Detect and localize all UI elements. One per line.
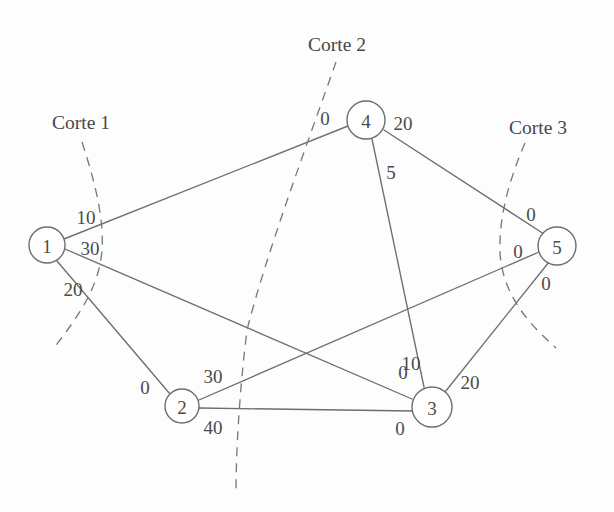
- node-1[interactable]: 1: [29, 227, 65, 263]
- corte-3-label: Corte 3: [509, 117, 567, 138]
- edge-1-3: [65, 249, 412, 399]
- corte-1-label: Corte 1: [52, 112, 110, 133]
- edge-1-4: [64, 126, 348, 239]
- corte-2-label: Corte 2: [308, 34, 366, 55]
- edge-label-1-3-0: 30: [81, 238, 100, 259]
- node-3[interactable]: 3: [412, 387, 452, 427]
- node-2[interactable]: 2: [165, 389, 199, 423]
- edge-2-3: [199, 408, 412, 411]
- node-label-1: 1: [42, 236, 52, 257]
- node-label-3: 3: [427, 398, 437, 419]
- edge-label-4-3-0: 5: [386, 162, 396, 183]
- edge-label-4-5-1: 0: [526, 204, 536, 225]
- node-label-5: 5: [552, 237, 562, 258]
- node-label-2: 2: [177, 397, 187, 418]
- node-label-4: 4: [361, 111, 371, 132]
- edge-2-5: [199, 252, 539, 400]
- node-4[interactable]: 4: [347, 101, 385, 139]
- edge-4-5: [384, 130, 544, 234]
- figure-canvas: 12345 100300200300400510200200 Corte 1Co…: [0, 0, 614, 512]
- edge-label-1-4-1: 0: [320, 108, 330, 129]
- network-flow-diagram: 12345 100300200300400510200200 Corte 1Co…: [0, 0, 614, 512]
- edge-label-3-5-1: 0: [541, 273, 551, 294]
- nodes-layer: 12345: [29, 101, 576, 427]
- edge-label-4-3-1: 10: [402, 353, 421, 374]
- edge-label-2-5-1: 0: [513, 241, 523, 262]
- edge-4-3: [372, 139, 424, 387]
- edge-label-4-5-0: 20: [394, 113, 413, 134]
- edge-label-1-4-0: 10: [77, 207, 96, 228]
- cut-labels-layer: Corte 1Corte 2Corte 3: [52, 34, 567, 138]
- edge-labels-layer: 100300200300400510200200: [64, 108, 551, 439]
- edge-label-2-3-0: 40: [204, 417, 223, 438]
- node-5[interactable]: 5: [538, 227, 576, 265]
- edge-label-2-3-1: 0: [395, 418, 405, 439]
- edges-layer: [57, 126, 549, 411]
- edge-label-3-5-0: 20: [461, 372, 480, 393]
- edge-label-1-2-1: 0: [140, 377, 150, 398]
- edge-label-2-5-0: 30: [204, 366, 223, 387]
- edge-label-1-2-0: 20: [64, 279, 83, 300]
